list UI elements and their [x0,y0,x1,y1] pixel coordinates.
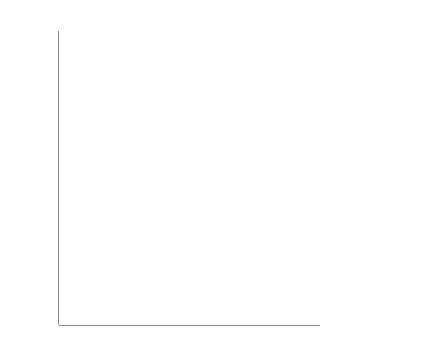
chart-canvas [0,0,430,357]
probability-plot-chart [0,0,430,357]
